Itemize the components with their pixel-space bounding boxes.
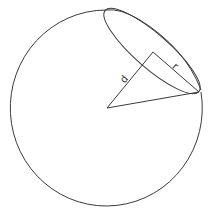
sphere-outline [10, 10, 202, 206]
sphere-cap-diagram: d r [0, 0, 210, 218]
sphere-radius-line [107, 92, 199, 108]
label-r: r [170, 61, 181, 73]
label-d: d [118, 73, 131, 85]
cap-base-ellipse [94, 0, 210, 105]
